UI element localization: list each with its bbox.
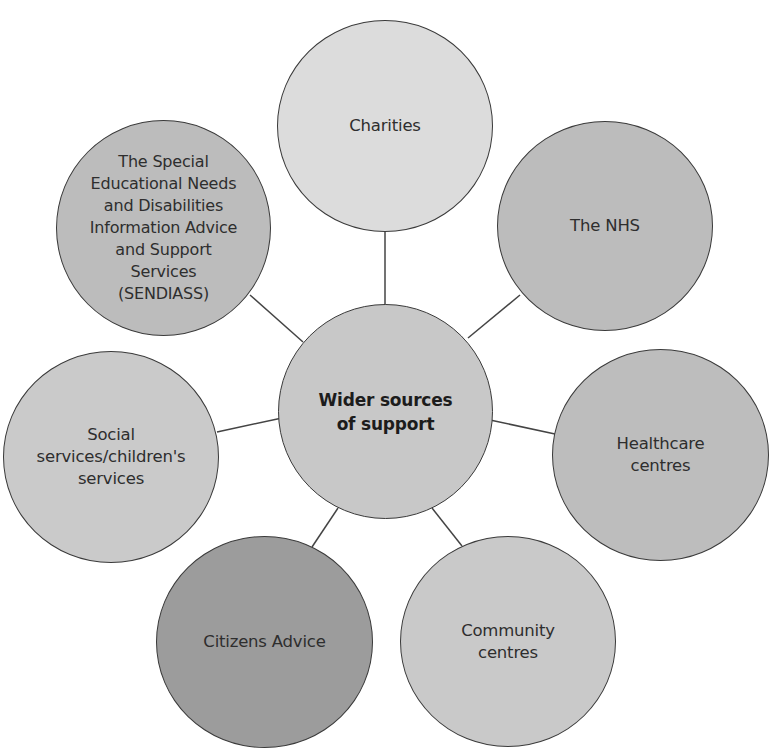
node-label: Citizens Advice bbox=[203, 631, 325, 653]
node-community-centres: Community centres bbox=[400, 536, 616, 747]
connector-community bbox=[432, 508, 462, 546]
node-citizens-advice: Citizens Advice bbox=[156, 536, 373, 748]
node-the-nhs: The NHS bbox=[497, 121, 713, 331]
node-label: The Special Educational Needs and Disabi… bbox=[90, 151, 237, 305]
connector-citizens bbox=[312, 508, 338, 547]
central-hub-label: Wider sources of support bbox=[319, 388, 453, 436]
connector-sendiass bbox=[250, 295, 303, 342]
node-label: Community centres bbox=[461, 620, 555, 664]
node-social-services: Social services/children's services bbox=[3, 351, 219, 563]
node-label: The NHS bbox=[570, 215, 640, 237]
central-hub: Wider sources of support bbox=[278, 304, 493, 519]
connector-healthcare bbox=[490, 420, 555, 434]
node-label: Charities bbox=[349, 115, 420, 137]
node-charities: Charities bbox=[277, 20, 493, 232]
connector-nhs bbox=[468, 295, 520, 338]
node-label: Healthcare centres bbox=[617, 433, 705, 477]
node-label: Social services/children's services bbox=[37, 424, 186, 490]
connector-social bbox=[217, 418, 282, 432]
node-healthcare-centres: Healthcare centres bbox=[552, 349, 769, 561]
node-sendiass: The Special Educational Needs and Disabi… bbox=[56, 120, 271, 336]
